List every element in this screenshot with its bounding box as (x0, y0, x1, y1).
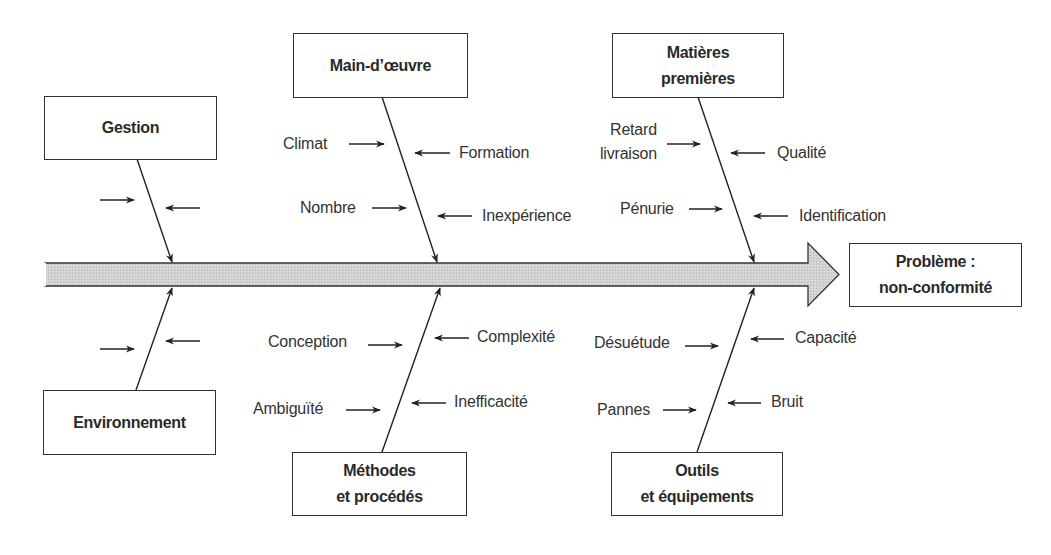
bone-environnement (136, 288, 172, 390)
cause-label: Bruit (771, 391, 803, 413)
cause-label: Désuétude (594, 332, 670, 354)
cause-label: Climat (283, 133, 327, 155)
bone-main-doeuvre (382, 97, 437, 262)
category-box-outils: Outils et équipements (611, 452, 783, 516)
category-label: Gestion (102, 115, 159, 141)
category-label: Main-d’œuvre (330, 53, 431, 79)
cause-label: Inexpérience (482, 205, 571, 227)
category-box-gestion: Gestion (44, 96, 217, 160)
category-label: Outils et équipements (640, 458, 753, 510)
cause-label: Ambiguïté (253, 398, 323, 420)
category-label: Environnement (73, 410, 186, 436)
category-box-methodes: Méthodes et procédés (292, 452, 467, 516)
category-label: Méthodes et procédés (336, 458, 423, 510)
cause-label: Complexité (477, 326, 555, 348)
cause-label: Identification (799, 205, 886, 227)
cause-label: Conception (268, 331, 347, 353)
bone-outils (697, 288, 754, 452)
effect-label: Problème : non-conformité (879, 249, 992, 301)
effect-box: Problème : non-conformité (849, 243, 1022, 307)
cause-label: Inefficacité (454, 391, 528, 413)
cause-label: Capacité (795, 327, 857, 349)
category-label: Matières premières (661, 40, 735, 92)
cause-label: Qualité (777, 142, 826, 164)
cause-label: Formation (459, 142, 529, 164)
cause-label: Pannes (597, 399, 650, 421)
category-box-main-doeuvre: Main-d’œuvre (293, 33, 468, 98)
category-box-matieres-premieres: Matières premières (612, 33, 784, 98)
bone-gestion (137, 159, 172, 262)
cause-label: Pénurie (620, 198, 674, 220)
category-box-environnement: Environnement (43, 390, 216, 455)
bone-matieres (698, 97, 754, 262)
cause-label: Retard livraison (600, 118, 657, 166)
bone-methodes (382, 288, 440, 452)
cause-label: Nombre (300, 197, 356, 219)
spine-arrow (45, 243, 839, 306)
